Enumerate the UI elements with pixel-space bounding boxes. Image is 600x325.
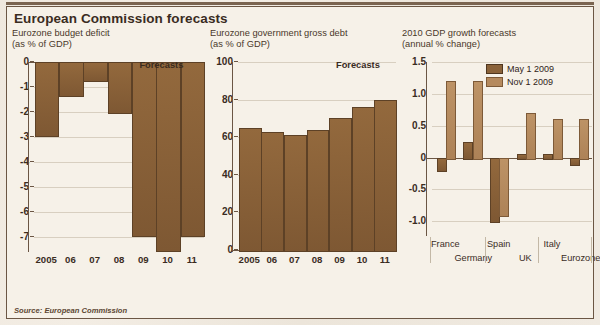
panel-budget-deficit: Eurozone budget deficit (as % of GDP) 0-… <box>12 28 208 304</box>
x-axis-tick-label: 07 <box>283 254 306 265</box>
y-axis-tick <box>30 161 34 162</box>
plot-area-deficit: 0-1-2-3-4-5-6-72005060708091011Forecasts <box>12 62 208 270</box>
x-axis-tick-label: 2005 <box>238 254 261 265</box>
x-axis-tick-label: 08 <box>107 254 131 265</box>
y-axis-tick-label: -0.5 <box>402 183 426 194</box>
plot-area-debt: 0204060801002005060708091011Forecasts <box>210 62 400 270</box>
y-axis-tick-label: -3 <box>12 131 29 142</box>
y-axis-tick-label: 1.0 <box>402 88 426 99</box>
y-axis-tick-label: -1.0 <box>402 215 426 226</box>
bar <box>490 158 500 224</box>
gridline <box>432 221 592 222</box>
x-axis-group-label: France <box>428 239 463 249</box>
bar <box>284 135 307 252</box>
panel-subtitle-growth: 2010 GDP growth forecasts (annual % chan… <box>402 28 594 49</box>
y-axis-tick-label: 60 <box>210 131 233 142</box>
x-axis-tick-label: 10 <box>351 254 374 265</box>
y-axis-tick-label: -7 <box>12 231 29 242</box>
y-axis-tick <box>234 136 238 137</box>
bar <box>239 128 262 252</box>
panel-subtitle-deficit: Eurozone budget deficit (as % of GDP) <box>12 28 208 49</box>
group-separator <box>430 237 431 263</box>
legend-label: May 1 2009 <box>507 64 554 74</box>
group-separator <box>591 237 592 263</box>
legend-item: May 1 2009 <box>486 64 554 74</box>
bar <box>526 113 536 160</box>
x-axis-tick-label: 06 <box>261 254 284 265</box>
y-axis-tick <box>234 211 238 212</box>
y-axis-tick <box>30 186 34 187</box>
bar <box>579 119 589 159</box>
y-axis-tick <box>30 211 34 212</box>
bar <box>261 132 284 252</box>
y-axis-tick-label: -5 <box>12 181 29 192</box>
y-axis-tick-label: -2 <box>12 106 29 117</box>
bar <box>499 158 509 217</box>
gridline <box>432 62 592 63</box>
bar <box>352 107 375 252</box>
group-separator <box>485 237 486 263</box>
bar <box>307 130 330 252</box>
y-axis-tick <box>30 236 34 237</box>
group-separator <box>538 237 539 263</box>
x-axis-tick-label: 06 <box>58 254 82 265</box>
y-axis-tick-label: 0.5 <box>402 120 426 131</box>
y-axis-tick <box>234 61 238 62</box>
panel-gdp-growth: 2010 GDP growth forecasts (annual % chan… <box>402 28 594 304</box>
y-axis-tick <box>234 174 238 175</box>
bar <box>463 142 473 160</box>
x-axis-tick-label: 09 <box>131 254 155 265</box>
x-axis-group-label: Italy <box>534 239 569 249</box>
top-rule <box>6 2 594 5</box>
bar <box>156 62 181 252</box>
x-axis-tick-label: 10 <box>155 254 179 265</box>
y-axis-tick-label: 0 <box>402 152 426 163</box>
bar <box>543 154 553 159</box>
y-axis-line <box>232 62 233 252</box>
y-axis-tick-label: 80 <box>210 94 233 105</box>
forecast-label: Forecasts <box>139 60 183 70</box>
y-axis-tick-label: 100 <box>210 56 233 67</box>
x-axis-group-label: Spain <box>481 239 516 249</box>
legend-swatch <box>486 64 503 74</box>
y-axis-line <box>426 62 427 236</box>
y-axis-tick-label: 40 <box>210 169 233 180</box>
x-axis-tick-label: 11 <box>180 254 204 265</box>
bar <box>374 100 397 252</box>
bar <box>437 158 447 173</box>
bar <box>446 81 456 159</box>
y-axis-tick-label: 0 <box>210 244 233 255</box>
x-axis-tick-label: 2005 <box>34 254 58 265</box>
x-axis-tick-label: 08 <box>306 254 329 265</box>
y-axis-tick <box>30 86 34 87</box>
bar <box>132 62 157 237</box>
x-axis-tick-label: 11 <box>373 254 396 265</box>
y-axis-tick-label: -4 <box>12 156 29 167</box>
legend-item: Nov 1 2009 <box>486 77 554 87</box>
source-note: Source: European Commission <box>14 306 127 315</box>
y-axis-tick <box>234 99 238 100</box>
chart-legend: May 1 2009Nov 1 2009 <box>486 64 554 90</box>
bar <box>473 81 483 159</box>
bar <box>517 154 527 159</box>
y-axis-line <box>28 62 29 252</box>
y-axis-tick <box>30 111 34 112</box>
y-axis-tick-label: 20 <box>210 206 233 217</box>
bar <box>570 158 580 166</box>
chart-page: European Commission forecasts Eurozone b… <box>0 0 600 325</box>
y-axis-tick-label: -6 <box>12 206 29 217</box>
bar <box>35 62 60 137</box>
gridline <box>238 100 396 101</box>
bar <box>181 62 206 237</box>
panel-gross-debt: Eurozone government gross debt (as % of … <box>210 28 400 304</box>
y-axis-tick-label: 1.5 <box>402 56 426 67</box>
y-axis-tick-label: 0 <box>12 56 29 67</box>
bar <box>83 62 108 82</box>
plot-area-growth: 1.51.00.50-0.5-1.0FranceGermanySpainUKIt… <box>402 62 594 270</box>
y-axis-tick <box>30 136 34 137</box>
gridline <box>432 189 592 190</box>
page-title: European Commission forecasts <box>14 11 228 26</box>
panel-subtitle-debt: Eurozone government gross debt (as % of … <box>210 28 400 49</box>
bar <box>553 119 563 159</box>
legend-label: Nov 1 2009 <box>507 77 553 87</box>
